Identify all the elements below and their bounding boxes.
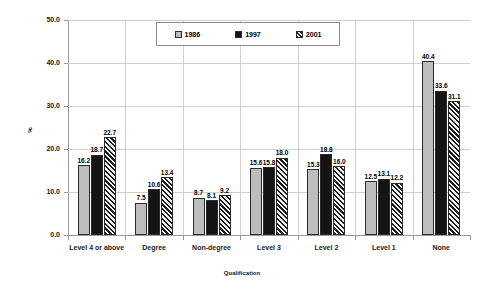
bar-value-label: 31.1 bbox=[448, 93, 461, 100]
x-axis-tick-mark bbox=[470, 236, 471, 240]
bar-1986-level-3[interactable]: 15.6 bbox=[250, 20, 262, 235]
bar-2001-level-4-or-above[interactable]: 22.7 bbox=[104, 20, 116, 235]
bar-rect[interactable] bbox=[206, 200, 218, 235]
x-axis-category-label: Level 2 bbox=[298, 243, 355, 252]
x-axis-tick-mark bbox=[68, 236, 69, 240]
bar-value-label: 15.6 bbox=[250, 159, 263, 166]
x-axis-category-label: Level 1 bbox=[355, 243, 412, 252]
bar-1986-level-2[interactable]: 15.3 bbox=[307, 20, 319, 235]
bar-2001-level-2[interactable]: 16.0 bbox=[333, 20, 345, 235]
bar-value-label: 9.2 bbox=[220, 187, 229, 194]
x-axis-tick-mark bbox=[183, 236, 184, 240]
bar-value-label: 22.7 bbox=[103, 129, 116, 136]
bar-value-label: 12.5 bbox=[365, 173, 378, 180]
bar-2001-level-3[interactable]: 18.0 bbox=[276, 20, 288, 235]
x-axis-tick-mark bbox=[298, 236, 299, 240]
legend-swatch-icon bbox=[296, 31, 303, 38]
bar-1997-level-3[interactable]: 15.8 bbox=[263, 20, 275, 235]
y-axis-tick-label: 30.0 bbox=[26, 102, 60, 109]
x-axis-category-label: Level 3 bbox=[240, 243, 297, 252]
bar-rect[interactable] bbox=[135, 203, 147, 235]
bar-1997-level-2[interactable]: 18.8 bbox=[320, 20, 332, 235]
bar-rect[interactable] bbox=[320, 154, 332, 235]
y-axis-tick-label: 20.0 bbox=[26, 145, 60, 152]
x-axis-tick-mark bbox=[413, 236, 414, 240]
bar-1997-non-degree[interactable]: 8.1 bbox=[206, 20, 218, 235]
legend-entry-1997[interactable]: 1997 bbox=[235, 31, 261, 38]
bar-1986-level-4-or-above[interactable]: 16.2 bbox=[78, 20, 90, 235]
bar-2001-non-degree[interactable]: 9.2 bbox=[219, 20, 231, 235]
bar-value-label: 16.0 bbox=[333, 158, 346, 165]
y-axis-tick-mark bbox=[64, 192, 68, 193]
bar-value-label: 40.4 bbox=[422, 53, 435, 60]
bar-value-label: 8.1 bbox=[207, 192, 216, 199]
legend-label: 1997 bbox=[245, 31, 261, 38]
bar-1986-degree[interactable]: 7.5 bbox=[135, 20, 147, 235]
bar-1997-level-4-or-above[interactable]: 18.7 bbox=[91, 20, 103, 235]
bar-1997-degree[interactable]: 10.6 bbox=[148, 20, 160, 235]
bar-rect[interactable] bbox=[422, 61, 434, 235]
legend-swatch-icon bbox=[175, 31, 182, 38]
x-axis-tick-mark bbox=[355, 236, 356, 240]
x-axis-title: Qualification bbox=[0, 270, 484, 276]
bar-value-label: 13.4 bbox=[161, 169, 174, 176]
bar-rect[interactable] bbox=[391, 183, 403, 235]
x-axis-category-label: Non-degree bbox=[183, 243, 240, 252]
bar-rect[interactable] bbox=[250, 168, 262, 235]
bar-value-label: 18.8 bbox=[320, 146, 333, 153]
bar-1986-non-degree[interactable]: 8.7 bbox=[193, 20, 205, 235]
bar-2001-none[interactable]: 31.1 bbox=[448, 20, 460, 235]
y-axis-tick-label: 10.0 bbox=[26, 188, 60, 195]
bar-group: 12.513.112.2 bbox=[355, 20, 412, 235]
bar-rect[interactable] bbox=[448, 101, 460, 235]
bar-rect[interactable] bbox=[219, 195, 231, 235]
bar-1986-none[interactable]: 40.4 bbox=[422, 20, 434, 235]
y-axis-tick-mark bbox=[64, 63, 68, 64]
bar-rect[interactable] bbox=[263, 167, 275, 235]
bar-rect[interactable] bbox=[78, 165, 90, 235]
bar-value-label: 13.1 bbox=[378, 170, 391, 177]
bar-value-label: 15.3 bbox=[307, 161, 320, 168]
bar-value-label: 10.6 bbox=[148, 181, 161, 188]
bar-1997-none[interactable]: 33.6 bbox=[435, 20, 447, 235]
y-axis-tick-mark bbox=[64, 20, 68, 21]
y-axis-tick-mark bbox=[64, 149, 68, 150]
bar-rect[interactable] bbox=[161, 177, 173, 235]
bar-rect[interactable] bbox=[148, 189, 160, 235]
bar-value-label: 15.8 bbox=[263, 159, 276, 166]
bar-value-label: 18.0 bbox=[276, 149, 289, 156]
x-axis-tick-mark bbox=[240, 236, 241, 240]
x-axis-category-label: Degree bbox=[125, 243, 182, 252]
bar-rect[interactable] bbox=[276, 158, 288, 235]
bar-value-label: 8.7 bbox=[194, 189, 203, 196]
bar-value-label: 12.2 bbox=[391, 174, 404, 181]
bar-rect[interactable] bbox=[104, 137, 116, 235]
bar-rect[interactable] bbox=[378, 179, 390, 235]
legend-entry-2001[interactable]: 2001 bbox=[296, 31, 322, 38]
bar-1986-level-1[interactable]: 12.5 bbox=[365, 20, 377, 235]
legend-swatch-icon bbox=[235, 31, 242, 38]
bar-chart: % 0.010.020.030.040.050.0 16.218.722.77.… bbox=[0, 0, 484, 294]
bar-group: 15.318.816.0 bbox=[298, 20, 355, 235]
bar-2001-degree[interactable]: 13.4 bbox=[161, 20, 173, 235]
bar-rect[interactable] bbox=[91, 155, 103, 235]
bar-rect[interactable] bbox=[193, 198, 205, 235]
bar-value-label: 16.2 bbox=[77, 157, 90, 164]
legend-label: 1986 bbox=[185, 31, 201, 38]
bar-rect[interactable] bbox=[307, 169, 319, 235]
y-axis-tick-labels: 0.010.020.030.040.050.0 bbox=[26, 0, 60, 294]
bar-2001-level-1[interactable]: 12.2 bbox=[391, 20, 403, 235]
bar-rect[interactable] bbox=[333, 166, 345, 235]
x-axis-category-label: None bbox=[413, 243, 470, 252]
bar-rect[interactable] bbox=[435, 91, 447, 235]
plot-area: 16.218.722.77.510.613.48.78.19.215.615.8… bbox=[68, 20, 470, 235]
bar-group: 15.615.818.0 bbox=[240, 20, 297, 235]
bar-group: 16.218.722.7 bbox=[68, 20, 125, 235]
y-axis-tick-label: 40.0 bbox=[26, 59, 60, 66]
bar-rect[interactable] bbox=[365, 181, 377, 235]
bar-group: 8.78.19.2 bbox=[183, 20, 240, 235]
bar-group: 7.510.613.4 bbox=[125, 20, 182, 235]
bar-1997-level-1[interactable]: 13.1 bbox=[378, 20, 390, 235]
legend-entry-1986[interactable]: 1986 bbox=[175, 31, 201, 38]
y-axis-tick-label: 50.0 bbox=[26, 16, 60, 23]
